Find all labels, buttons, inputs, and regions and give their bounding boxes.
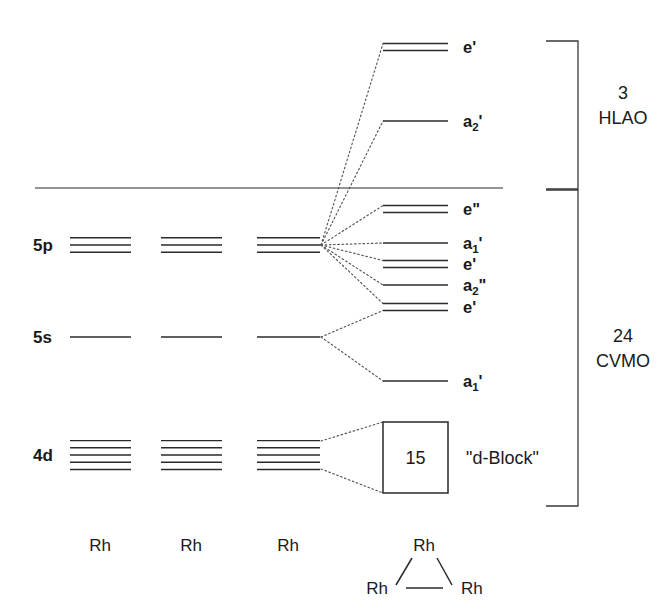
- rh3-vertex-right: Rh: [461, 579, 483, 598]
- bracket-hlao: 3 HLAO: [546, 41, 648, 189]
- d-block-label: "d-Block": [466, 448, 539, 468]
- bracket-cvmo: 24 CVMO: [546, 190, 650, 506]
- corr-5p-to-a2-prime: [321, 121, 383, 245]
- mo-label-mo-e-prime-mid: e': [463, 255, 476, 273]
- ao-set-5p-col3: [257, 238, 320, 252]
- ao-set-4d-col1: [70, 441, 131, 470]
- ao-label-5s: 5s: [33, 328, 52, 347]
- mo-lines-mo-e-prime-top: [383, 44, 448, 51]
- ao-label-5p: 5p: [33, 236, 53, 255]
- d-block-group: 15 "d-Block": [383, 422, 539, 493]
- atomic-orbital-levels: [70, 238, 320, 470]
- mo-label-mo-a1-prime-low: a1': [463, 372, 483, 393]
- mo-label-mo-a1-prime-up: a1': [463, 234, 483, 255]
- cvmo-count: 24: [613, 326, 633, 346]
- atom-label-col3: Rh: [277, 536, 299, 555]
- corr-5s-to-e-prime-low: [321, 311, 383, 338]
- corr-5p-to-a1-prime-up: [321, 243, 383, 245]
- atom-label-cluster-apex: Rh: [413, 536, 435, 555]
- mo-lines-mo-e-prime-mid: [383, 261, 448, 268]
- mo-level-lines: [383, 44, 448, 382]
- column-atom-labels: Rh Rh Rh Rh: [89, 536, 435, 555]
- ao-set-4d-col3: [257, 441, 320, 470]
- ao-set-4d-col2: [161, 441, 222, 470]
- corr-5p-to-a2-dprime: [321, 245, 383, 285]
- mo-label-mo-a2-prime: a2': [463, 112, 483, 133]
- mo-label-mo-e-prime-top: e': [463, 38, 476, 56]
- hlao-name: HLAO: [598, 108, 647, 128]
- ao-label-4d: 4d: [33, 446, 53, 465]
- bond-apex-right: [437, 558, 452, 585]
- mo-correlation-diagram: 5p 5s 4d e'a2'e"a1'e'a2"e'a1' 15 "d-Bloc…: [0, 0, 669, 616]
- d-block-count: 15: [405, 448, 425, 468]
- corr-5p-to-e-prime-low: [321, 245, 383, 304]
- bond-apex-left: [396, 558, 412, 585]
- ao-set-5p-col1: [70, 238, 131, 252]
- mo-label-mo-e-prime-low: e': [463, 298, 476, 316]
- mo-label-mo-a2-dprime: a2": [463, 276, 486, 297]
- corr-4d-to-dblock-bottom: [321, 469, 383, 493]
- correlation-lines: [321, 44, 383, 494]
- corr-5p-to-e-prime-top: [321, 44, 383, 246]
- atom-label-col1: Rh: [89, 536, 111, 555]
- cvmo-name: CVMO: [596, 351, 650, 371]
- mo-lines-mo-e-dprime: [383, 206, 448, 213]
- mo-level-labels: e'a2'e"a1'e'a2"e'a1': [463, 38, 486, 393]
- rh3-vertex-left: Rh: [366, 579, 388, 598]
- diagram-canvas: 5p 5s 4d e'a2'e"a1'e'a2"e'a1' 15 "d-Bloc…: [0, 0, 669, 616]
- atomic-orbital-labels: 5p 5s 4d: [33, 236, 53, 465]
- atom-label-col2: Rh: [180, 536, 202, 555]
- corr-5p-to-e-prime-mid: [321, 245, 383, 261]
- corr-5s-to-a1-prime-low: [321, 337, 383, 381]
- mo-lines-mo-e-prime-low: [383, 304, 448, 311]
- ao-set-5p-col2: [161, 238, 222, 252]
- mo-label-mo-e-dprime: e": [463, 200, 480, 218]
- corr-4d-to-dblock-top: [321, 422, 383, 441]
- hlao-count: 3: [618, 83, 628, 103]
- rh3-cluster-structure: Rh Rh: [366, 558, 482, 598]
